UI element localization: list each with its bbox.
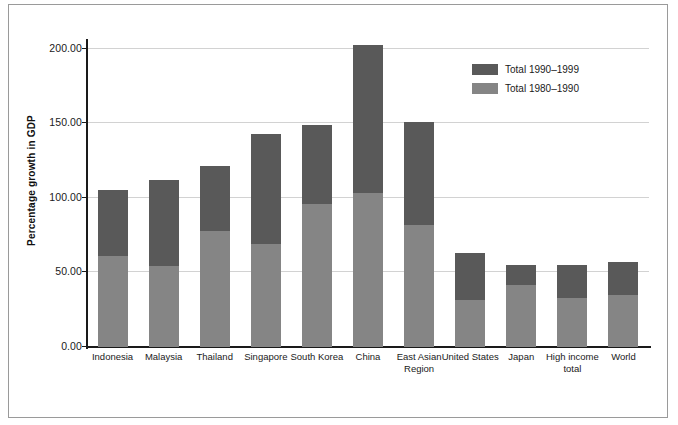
bar-high-income-total: [557, 265, 587, 347]
bar-segment-early: [506, 285, 536, 347]
bar-japan: [506, 265, 536, 347]
chart-frame: 200.00 150.00 100.00 50.00 0.00 Percenta…: [8, 4, 668, 418]
bar-china: [353, 45, 383, 347]
y-tick-label-0: 0.00: [12, 340, 82, 352]
bar-segment-late: [200, 166, 230, 231]
bar-united-states: [455, 253, 485, 347]
legend-item-late: Total 1990–1999: [472, 62, 579, 77]
bar-segment-late: [455, 253, 485, 300]
bar-segment-early: [251, 244, 281, 347]
bar-segment-early: [302, 204, 332, 347]
bar-world: [608, 262, 638, 347]
bar-segment-early: [557, 298, 587, 347]
bar-segment-early: [455, 300, 485, 347]
x-axis-label-world: World: [590, 351, 656, 363]
y-tick-label-100: 100.00: [12, 191, 82, 203]
bar-south-korea: [302, 125, 332, 347]
bar-segment-late: [557, 265, 587, 298]
bar-segment-early: [608, 295, 638, 347]
bar-segment-early: [149, 266, 179, 347]
bar-segment-early: [200, 231, 230, 347]
bar-segment-late: [302, 125, 332, 204]
bar-segment-late: [353, 45, 383, 194]
bar-segment-late: [404, 122, 434, 225]
bar-indonesia: [98, 190, 128, 347]
y-tick-label-150: 150.00: [12, 116, 82, 128]
y-tick-label-200: 200.00: [12, 42, 82, 54]
bar-segment-early: [353, 193, 383, 347]
bar-segment-late: [506, 265, 536, 285]
chart-legend: Total 1990–1999 Total 1980–1990: [472, 62, 579, 100]
bar-segment-late: [608, 262, 638, 295]
y-axis-ticks: 200.00 150.00 100.00 50.00 0.00: [9, 5, 82, 425]
y-axis-title: Percentage growth in GDP: [26, 91, 37, 271]
bar-east-asian-region: [404, 122, 434, 347]
legend-swatch-early: [472, 83, 498, 94]
bar-segment-late: [98, 190, 128, 255]
bar-malaysia: [149, 180, 179, 347]
bar-segment-early: [404, 225, 434, 347]
y-tick-label-50: 50.00: [12, 265, 82, 277]
bar-segment-late: [251, 134, 281, 243]
bar-segment-late: [149, 180, 179, 267]
bar-thailand: [200, 166, 230, 347]
legend-label-early: Total 1980–1990: [505, 83, 579, 94]
legend-item-early: Total 1980–1990: [472, 81, 579, 96]
legend-label-late: Total 1990–1999: [505, 64, 579, 75]
bar-segment-early: [98, 256, 128, 347]
legend-swatch-late: [472, 64, 498, 75]
bar-singapore: [251, 134, 281, 347]
